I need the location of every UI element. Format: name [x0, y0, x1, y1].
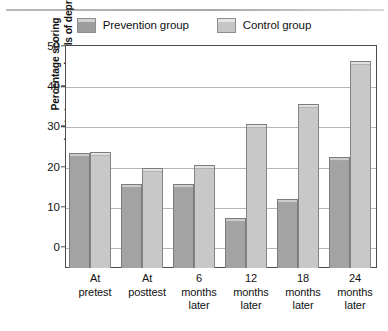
y-tick-label-0: 0	[54, 241, 60, 253]
gridline-30	[66, 127, 376, 128]
legend-label-control: Control group	[243, 19, 311, 31]
x-axis-label-line: 24	[324, 272, 386, 286]
legend-swatch-control-icon	[217, 18, 236, 33]
gridline-40	[66, 87, 376, 88]
x-axis-label-line: later	[324, 299, 386, 313]
gridline-10	[66, 208, 376, 209]
x-axis-labels: AtpretestAtposttest6monthslater12monthsl…	[65, 272, 377, 330]
y-tick-label-20: 20	[47, 161, 60, 173]
legend-label-prevention: Prevention group	[103, 19, 189, 31]
legend-entry-prevention: Prevention group	[77, 18, 189, 33]
legend-entry-control: Control group	[217, 18, 311, 33]
x-axis-label: 24monthslater	[324, 272, 386, 313]
y-tick-label-40: 40	[47, 80, 60, 92]
y-tick-label-50: 50	[47, 40, 60, 52]
gridline-20	[66, 168, 376, 169]
y-tick-label-10: 10	[47, 201, 60, 213]
y-tick-label-30: 30	[47, 120, 60, 132]
chart-plot-area	[65, 45, 377, 268]
legend-swatch-prevention-icon	[77, 18, 96, 33]
x-axis-label-line: months	[324, 286, 386, 300]
y-axis-ticks: 01020304050	[40, 38, 66, 278]
gridline-0	[66, 248, 376, 249]
